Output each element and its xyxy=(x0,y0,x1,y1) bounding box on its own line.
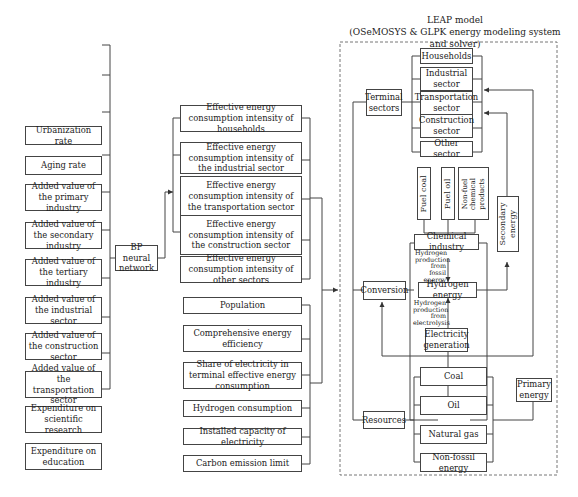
sector-other: Other sector xyxy=(420,141,473,157)
intensity-label: Effective energy consumption intensity o… xyxy=(183,180,299,213)
input-label: Added value of the tertiary industry xyxy=(28,256,99,289)
param-installed-capacity: Installed capacity of electricity xyxy=(183,428,302,445)
input-label: Aging rate xyxy=(41,160,86,171)
input-label: Added value of the industrial sector xyxy=(28,294,99,327)
param-label: Hydrogen consumption xyxy=(193,403,292,414)
conversion-label: Conversion xyxy=(361,285,409,296)
sector-label: Households xyxy=(422,51,472,62)
resource-label: Oil xyxy=(447,400,459,411)
input-label: Added value of the transportation sector xyxy=(28,363,99,407)
resources: Resources xyxy=(363,411,405,429)
intensity-label: Effective energy consumption intensity o… xyxy=(183,253,299,286)
sector-construction: Construction sector xyxy=(420,114,473,138)
bp-label: BP neural network xyxy=(118,242,155,275)
input-label: Added value of the primary industry xyxy=(28,181,99,214)
leap-title-main: LEAP model xyxy=(340,14,570,26)
sector-label: Other sector xyxy=(423,138,470,160)
resource-label: Non-fossil energy xyxy=(423,452,484,474)
input-construction-sector: Added value of the construction sector xyxy=(25,333,102,360)
intensity-industrial: Effective energy consumption intensity o… xyxy=(180,142,302,174)
param-population: Population xyxy=(183,297,302,314)
resource-oil: Oil xyxy=(420,396,487,415)
input-urbanization-rate: Urbanization rate xyxy=(25,126,102,145)
intensity-label: Effective energy consumption intensity o… xyxy=(183,219,299,252)
input-label: Expenditure on education xyxy=(28,446,99,468)
param-hydrogen-consumption: Hydrogen consumption xyxy=(183,400,302,417)
hydrogen-energy-label: Hydrogen energy xyxy=(421,279,474,301)
resources-label: Resources xyxy=(362,415,406,426)
sector-label: Industrial sector xyxy=(423,68,470,90)
sector-label: Transportation sector xyxy=(415,92,479,114)
product-fuel-coal: Fuel coal xyxy=(417,167,431,220)
input-label: Added value of the construction sector xyxy=(28,330,99,363)
input-industrial-sector: Added value of the industrial sector xyxy=(25,297,102,324)
bp-neural-network: BP neural network xyxy=(115,245,158,271)
param-label: Installed capacity of electricity xyxy=(186,426,299,448)
electricity-generation-label: Electricity generation xyxy=(423,329,469,351)
input-tertiary-industry: Added value of the tertiary industry xyxy=(25,259,102,286)
secondary-energy: Secondary energy xyxy=(497,196,519,252)
intensity-households: Effective energy consumption intensity o… xyxy=(180,105,302,132)
param-label: Share of electricity in terminal effecti… xyxy=(186,359,299,392)
input-label: Added value of the secondary industry xyxy=(28,219,99,252)
resource-natural-gas: Natural gas xyxy=(420,425,487,444)
primary-energy-label: Primary energy xyxy=(517,379,551,401)
product-fuel-oil: Fuel oil xyxy=(441,167,455,220)
input-label: Urbanization rate xyxy=(28,125,99,147)
intensity-transportation: Effective energy consumption intensity o… xyxy=(180,176,302,217)
product-label: Non-fuel chemical products xyxy=(461,170,486,218)
intensity-construction: Effective energy consumption intensity o… xyxy=(180,215,302,255)
resource-coal: Coal xyxy=(420,367,487,386)
input-primary-industry: Added value of the primary industry xyxy=(25,184,102,211)
product-non-fuel-chemical: Non-fuel chemical products xyxy=(458,167,489,220)
terminal-sectors: Terminal sectors xyxy=(366,89,402,116)
resource-non-fossil: Non-fossil energy xyxy=(420,453,487,472)
intensity-other: Effective energy consumption intensity o… xyxy=(180,256,302,283)
note-electrolysis-label: Hydrogen production from electrolysis xyxy=(413,299,450,327)
leap-title: LEAP model (OSeMOSYS & GLPK energy model… xyxy=(340,14,570,50)
intensity-label: Effective energy consumption intensity o… xyxy=(183,142,299,175)
leap-title-sub: (OSeMOSYS & GLPK energy modeling system … xyxy=(340,26,570,50)
chemical-industry: Chemical industry xyxy=(414,234,479,250)
param-label: Population xyxy=(220,300,265,311)
input-label: Expenditure on scientific research xyxy=(28,403,99,436)
param-electricity-share: Share of electricity in terminal effecti… xyxy=(183,362,302,389)
input-education: Expenditure on education xyxy=(25,443,102,470)
input-transportation-sector: Added value of the transportation sector xyxy=(25,371,102,398)
resource-label: Coal xyxy=(444,371,463,382)
note-electrolysis-hydrogen: Hydrogen production from electrolysis xyxy=(413,300,446,327)
param-energy-efficiency: Comprehensive energy efficiency xyxy=(183,325,302,352)
param-label: Carbon emission limit xyxy=(196,458,289,469)
param-carbon-limit: Carbon emission limit xyxy=(183,455,302,472)
conversion: Conversion xyxy=(363,281,406,300)
electricity-generation: Electricity generation xyxy=(425,328,468,352)
sector-households: Households xyxy=(420,48,473,64)
product-label: Fuel coal xyxy=(419,175,429,212)
primary-energy: Primary energy xyxy=(516,378,552,402)
input-secondary-industry: Added value of the secondary industry xyxy=(25,222,102,249)
hydrogen-energy: Hydrogen energy xyxy=(418,282,477,298)
sector-industrial: Industrial sector xyxy=(420,67,473,91)
terminal-label: Terminal sectors xyxy=(365,92,403,114)
resource-label: Natural gas xyxy=(428,429,478,440)
product-label: Fuel oil xyxy=(443,178,453,208)
input-scientific-research: Expenditure on scientific research xyxy=(25,406,102,433)
sector-label: Construction sector xyxy=(419,115,474,137)
input-aging-rate: Aging rate xyxy=(25,156,102,175)
secondary-energy-label: Secondary energy xyxy=(498,199,517,249)
param-label: Comprehensive energy efficiency xyxy=(186,328,299,350)
sector-transportation: Transportation sector xyxy=(420,91,473,115)
intensity-label: Effective energy consumption intensity o… xyxy=(183,102,299,135)
